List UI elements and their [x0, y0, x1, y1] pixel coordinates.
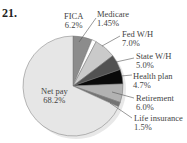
slice-value: 1.45% — [97, 19, 129, 28]
slice-value: 68.2% — [41, 96, 68, 105]
slice-value: 1.5% — [134, 123, 183, 132]
leader-line — [116, 58, 134, 62]
label-state-wh: State W/H 5.0% — [136, 52, 172, 70]
slice-value: 6.0% — [136, 103, 174, 112]
slice-value: 4.7% — [133, 81, 172, 90]
slice-value: 5.0% — [136, 61, 172, 70]
label-retirement: Retirement 6.0% — [136, 94, 174, 112]
label-fica: FICA 6.2% — [64, 12, 83, 30]
leader-line — [102, 36, 120, 46]
slice-value: 6.2% — [64, 21, 83, 30]
label-net-pay: Net pay 68.2% — [41, 87, 68, 105]
label-life-insurance: Life insurance 1.5% — [134, 114, 183, 132]
label-medicare: Medicare 1.45% — [97, 10, 129, 28]
label-health-plan: Health plan 4.7% — [133, 72, 172, 90]
slice-value: 7.0% — [122, 39, 153, 48]
label-fed-wh: Fed W/H 7.0% — [122, 30, 153, 48]
